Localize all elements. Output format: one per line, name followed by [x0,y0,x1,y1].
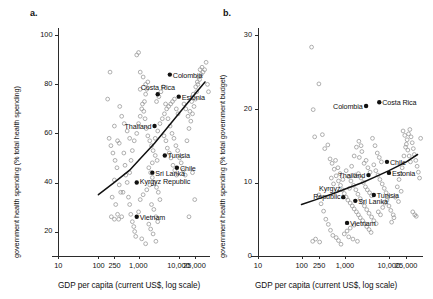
data-point [409,135,413,139]
data-point [138,114,142,118]
data-point [113,158,117,162]
data-point [155,100,159,104]
point-label-colombia: Colombia [173,71,203,80]
data-point [174,107,178,111]
x-tick-label: 10 [254,261,262,270]
point-label-costa-rica: Costa Rica [141,83,175,92]
data-point [120,215,124,219]
data-point [326,222,330,226]
data-point [148,139,152,143]
point-label-costa-rica: Costa Rica [382,98,416,107]
data-point [111,151,115,155]
highlighted-point [341,195,345,199]
point-label-estonia: Estonia [392,169,415,178]
data-point [150,203,154,207]
data-point [118,105,122,109]
data-point [174,144,178,148]
data-point [189,119,193,123]
panel-b-plot-area: ColombiaCosta RicaChileEstoniaThailandTu… [251,28,423,256]
y-tick [255,35,258,36]
data-point [117,183,121,187]
x-tick [58,256,59,259]
data-point [158,198,162,202]
data-point [355,145,359,149]
data-point [334,158,338,162]
point-label-thailand: Thailand [338,171,365,180]
data-point [323,147,327,151]
data-point [116,212,120,216]
data-point [329,228,333,232]
data-point [311,108,315,112]
data-point [141,75,145,79]
data-point [403,133,407,137]
x-tick [114,256,115,259]
data-point [125,181,129,185]
data-point [419,136,423,140]
data-point [337,239,341,243]
data-point [120,114,124,118]
point-label-vietnam: Vietnam [350,219,376,228]
point-label-kyrgyz-republic: Kyrgyz Republic [140,178,190,185]
x-tick-label: 25,000 [395,261,418,270]
data-point [108,70,112,74]
highlighted-point [353,199,357,203]
data-point [408,128,412,132]
data-point [410,141,414,145]
data-point [156,129,160,133]
data-point [399,189,403,193]
highlighted-point [387,171,391,175]
highlighted-point [364,104,368,108]
data-point [389,209,393,213]
data-point [371,136,375,140]
data-point [163,112,167,116]
data-point [359,144,363,148]
data-point [172,136,176,140]
data-point [112,217,116,221]
data-point [154,239,158,243]
highlighted-point [135,180,139,184]
data-point [130,149,134,153]
data-point [115,166,119,170]
data-point [406,148,410,152]
x-tick [195,256,196,259]
data-point [186,114,190,118]
highlighted-point [366,173,370,177]
data-point [153,154,157,158]
data-point [326,143,330,147]
data-point [372,163,376,167]
data-point [204,60,208,64]
x-tick-label: 100 [92,261,104,270]
data-point [129,158,133,162]
data-point [356,239,360,243]
data-point [193,198,197,202]
highlighted-point [345,221,349,225]
data-point [162,134,166,138]
highlighted-point [150,170,154,174]
data-point [110,195,114,199]
y-tick-label: 40 [44,177,52,186]
y-tick-label: 20 [244,104,252,113]
data-point [122,151,126,155]
data-point [165,146,169,150]
panel-a-plot-area: ColombiaCosta RicaEstoniaThailandTunisia… [52,28,210,256]
data-point [377,156,381,160]
panel-a-y-axis-title: government health spending (% total heal… [12,86,21,258]
data-point [149,227,153,231]
y-tick [55,133,58,134]
panel-a-letter: a. [30,8,38,18]
data-point [140,107,144,111]
scatter-canvas [52,28,210,256]
x-tick-label: 100 [296,261,308,270]
data-point [313,135,317,139]
x-tick-label: 1,000 [129,261,148,270]
data-point [128,203,132,207]
data-point [112,124,116,128]
data-point [332,167,336,171]
x-tick [302,256,303,259]
highlighted-point [385,160,389,164]
data-point [339,242,343,246]
data-point [206,82,210,86]
point-label-vietnam: Vietnam [140,213,166,222]
data-point [317,82,321,86]
panel-b-y-axis-title: government health spending (% total gove… [218,75,227,258]
